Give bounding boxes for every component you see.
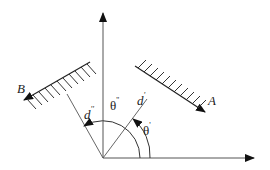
label-b: B bbox=[17, 82, 25, 95]
label-a: A bbox=[208, 94, 216, 107]
prime: ' bbox=[144, 91, 146, 100]
d-letter: d bbox=[137, 93, 144, 108]
label-d-prime: d' bbox=[137, 94, 145, 107]
label-d-double-prime: d'' bbox=[84, 108, 94, 121]
diagram-canvas: B A d'' d' θ'' θ' bbox=[0, 0, 270, 170]
double-prime: '' bbox=[91, 105, 94, 114]
wall-a bbox=[135, 60, 206, 112]
prime: ' bbox=[149, 121, 150, 130]
double-prime: '' bbox=[116, 96, 119, 105]
diagram-svg bbox=[0, 0, 270, 170]
wall-b bbox=[24, 62, 96, 109]
normal-d-double-prime bbox=[67, 94, 103, 158]
d-letter: d bbox=[84, 107, 91, 122]
label-theta-prime: θ' bbox=[143, 124, 151, 137]
label-theta-double-prime: θ'' bbox=[110, 99, 119, 112]
